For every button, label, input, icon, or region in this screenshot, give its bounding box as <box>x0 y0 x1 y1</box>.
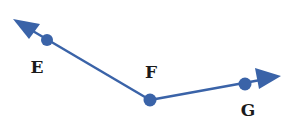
label-g: G <box>241 100 256 120</box>
point-f <box>144 94 157 107</box>
angle-diagram: E F G <box>0 0 286 134</box>
arrowhead-g-icon <box>255 68 281 89</box>
point-e <box>41 34 53 46</box>
arrowhead-e-icon <box>13 19 40 39</box>
label-e: E <box>31 57 44 77</box>
point-g <box>239 78 252 91</box>
label-f: F <box>145 62 157 82</box>
